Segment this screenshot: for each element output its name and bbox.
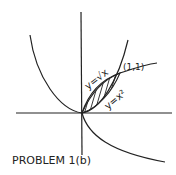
problem-title: PROBLEM 1(b) bbox=[12, 154, 91, 167]
sqrt-curve-lower bbox=[82, 113, 165, 162]
diagram-canvas: y=√x y=x² (1,1) PROBLEM 1(b) bbox=[0, 0, 176, 175]
intersection-point-label: (1,1) bbox=[123, 62, 144, 72]
